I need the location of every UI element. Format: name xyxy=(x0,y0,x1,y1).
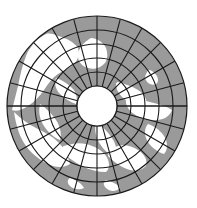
polar-map-figure: North Polar Azimuthal Projection Map xyxy=(0,0,197,208)
polar-map-canvas xyxy=(0,0,197,208)
pole-hole xyxy=(77,86,117,126)
